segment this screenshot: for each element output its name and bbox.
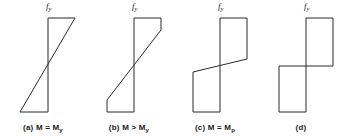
stress-diagram-c xyxy=(172,0,258,136)
stress-label-fy-a: fy xyxy=(46,2,51,13)
stress-label-fy-c: fy xyxy=(218,2,223,13)
caption-b: (b) M > My xyxy=(86,124,172,133)
stress-distribution-figure: fy (a) M = My fy (b) M > My fy xyxy=(0,0,344,136)
caption-c: (c) M = Mp xyxy=(172,124,258,133)
stress-label-fy-b: fy xyxy=(132,2,137,13)
caption-a: (a) M = My xyxy=(0,124,86,133)
diagram-panel-d: fy (d) xyxy=(258,0,344,136)
stress-diagram-b xyxy=(86,0,172,136)
caption-d: (d) xyxy=(258,124,344,133)
stress-label-fy-d: fy xyxy=(304,2,309,13)
diagram-panel-a: fy (a) M = My xyxy=(0,0,86,136)
diagram-panel-b: fy (b) M > My xyxy=(86,0,172,136)
stress-diagram-d xyxy=(258,0,344,136)
stress-diagram-a xyxy=(0,0,86,136)
diagram-panel-c: fy (c) M = Mp xyxy=(172,0,258,136)
